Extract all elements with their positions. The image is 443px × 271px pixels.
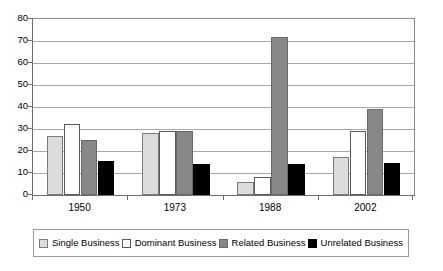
- bar: [271, 37, 288, 195]
- legend-item[interactable]: Dominant Business: [122, 238, 217, 248]
- gridline: [33, 107, 414, 108]
- bar: [367, 109, 384, 195]
- bar: [333, 157, 350, 196]
- gridline: [33, 85, 414, 86]
- x-tick-mark: [32, 196, 33, 200]
- y-tick-label: 80: [4, 13, 28, 23]
- gridline: [33, 41, 414, 42]
- bar: [350, 131, 367, 195]
- bar: [98, 161, 115, 195]
- legend-swatch-icon: [219, 239, 228, 248]
- bar: [254, 177, 271, 195]
- gridline: [33, 129, 414, 130]
- legend-item[interactable]: Single Business: [39, 238, 120, 248]
- bar: [193, 164, 210, 195]
- legend-label: Single Business: [52, 238, 120, 248]
- bar-chart: 01020304050607080 1950197319882002 Singl…: [0, 0, 443, 271]
- y-tick-label: 30: [4, 123, 28, 133]
- legend-item[interactable]: Unrelated Business: [308, 238, 403, 248]
- bar: [237, 182, 254, 195]
- chart-legend: Single BusinessDominant BusinessRelated …: [33, 229, 409, 257]
- x-tick-label: 1988: [223, 202, 318, 213]
- x-tick-mark: [127, 196, 128, 200]
- legend-item[interactable]: Related Business: [219, 238, 306, 248]
- y-tick-label: 70: [4, 35, 28, 45]
- bar: [64, 124, 81, 196]
- x-axis: 1950197319882002: [32, 196, 415, 216]
- x-tick-label: 1973: [127, 202, 222, 213]
- legend-label: Dominant Business: [135, 238, 217, 248]
- x-tick-mark: [412, 196, 413, 200]
- gridline: [33, 63, 414, 64]
- legend-swatch-icon: [39, 239, 48, 248]
- legend-swatch-icon: [122, 239, 131, 248]
- y-tick-label: 20: [4, 145, 28, 155]
- y-axis: 01020304050607080: [0, 18, 28, 196]
- y-tick-label: 60: [4, 57, 28, 67]
- bar: [159, 131, 176, 195]
- legend-label: Unrelated Business: [321, 238, 403, 248]
- bar: [384, 163, 401, 195]
- bar: [288, 164, 305, 195]
- legend-swatch-icon: [308, 239, 317, 248]
- y-tick-label: 10: [4, 167, 28, 177]
- plot-area: [32, 18, 415, 196]
- x-tick-label: 2002: [318, 202, 413, 213]
- bar: [176, 131, 193, 195]
- bar: [47, 136, 64, 195]
- bar: [81, 140, 98, 195]
- x-tick-mark: [318, 196, 319, 200]
- y-tick-label: 40: [4, 101, 28, 111]
- y-tick-label: 0: [4, 189, 28, 199]
- x-tick-label: 1950: [32, 202, 127, 213]
- bar: [142, 133, 159, 195]
- x-tick-mark: [223, 196, 224, 200]
- legend-label: Related Business: [232, 238, 306, 248]
- y-tick-label: 50: [4, 79, 28, 89]
